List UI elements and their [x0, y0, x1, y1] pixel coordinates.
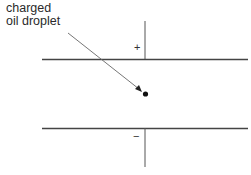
negative-sign: − [133, 131, 139, 142]
positive-sign: + [134, 42, 140, 53]
capacitor-diagram [0, 0, 251, 175]
pointer-arrow [68, 33, 139, 89]
arrowhead-icon [135, 85, 142, 92]
oil-droplet [143, 91, 148, 96]
